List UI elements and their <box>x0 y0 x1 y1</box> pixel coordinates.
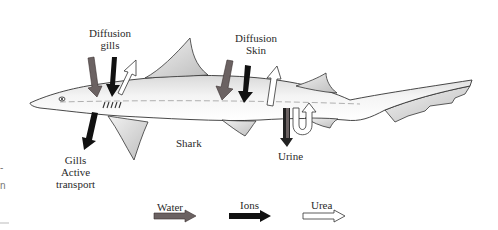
legend-ions-arrow <box>229 210 271 222</box>
label-urine: Urine <box>278 150 303 162</box>
edge-fragment: n <box>0 180 6 191</box>
edge-fragment: - <box>0 162 3 173</box>
legend-urea-label: Urea <box>311 199 332 211</box>
label-shark: Shark <box>176 137 202 149</box>
legend-urea-arrow <box>303 210 345 222</box>
legend-ions-label: Ions <box>240 199 259 211</box>
label-line: Diffusion <box>235 32 277 44</box>
label-line: Gills <box>56 154 95 166</box>
label-diffusion-gills: Diffusion gills <box>89 27 131 51</box>
label-line: Diffusion <box>89 27 131 39</box>
legend-water-label: Water <box>157 201 183 213</box>
label-line: Skin <box>235 44 277 56</box>
label-line: transport <box>56 178 95 190</box>
shark-body <box>30 38 472 160</box>
label-line: Active <box>56 166 95 178</box>
label-diffusion-skin: Diffusion Skin <box>235 32 277 56</box>
label-line: gills <box>89 39 131 51</box>
ions-out-gills-active-arrow <box>82 112 98 150</box>
label-gills-active-transport: Gills Active transport <box>56 154 95 190</box>
